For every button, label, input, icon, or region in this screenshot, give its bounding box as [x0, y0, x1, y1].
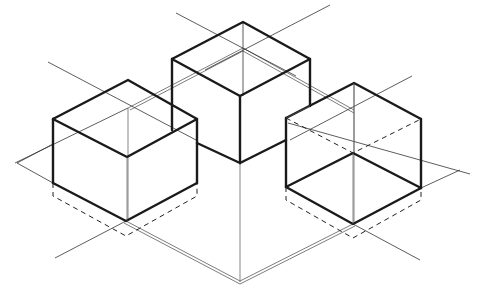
left-cube	[53, 80, 197, 236]
isometric-drawing	[0, 0, 477, 288]
ground-plane	[124, 48, 355, 284]
center-cube	[172, 22, 310, 163]
construction-lines	[15, 5, 470, 260]
